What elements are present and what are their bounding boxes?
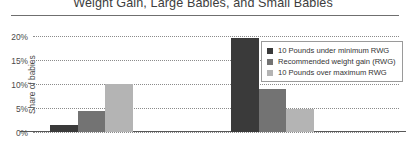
chart-legend: 10 Pounds under minimum RWG Recommended …: [261, 41, 403, 82]
bar-small-recommended[interactable]: [259, 89, 287, 132]
legend-item-recommended[interactable]: Recommended weight gain (RWG): [267, 56, 398, 67]
bar-large-recommended[interactable]: [78, 111, 106, 132]
legend-swatch-icon-recommended: [267, 59, 273, 65]
bar-small-over-max[interactable]: [286, 109, 314, 132]
y-tick-label-5: 5%: [16, 104, 28, 114]
bar-large-under-min[interactable]: [50, 125, 78, 132]
legend-label-over-max: 10 Pounds over maximum RWG: [278, 68, 387, 77]
legend-item-under-min[interactable]: 10 Pounds under minimum RWG: [267, 45, 398, 56]
y-tick-label-0: 0%: [16, 128, 28, 138]
y-tick-label-20: 20%: [11, 32, 28, 42]
legend-item-over-max[interactable]: 10 Pounds over maximum RWG: [267, 67, 398, 78]
bar-large-over-max[interactable]: [105, 84, 133, 132]
gridline-0: 0%: [33, 132, 399, 133]
legend-label-under-min: 10 Pounds under minimum RWG: [278, 46, 389, 55]
y-tick-label-15: 15%: [11, 56, 28, 66]
legend-swatch-icon-over-max: [267, 70, 273, 76]
chart-title: Weight Gain, Large Babies, and Small Bab…: [0, 0, 406, 10]
chart-screenshot: Weight Gain, Large Babies, and Small Bab…: [0, 0, 406, 151]
title-divider: [11, 15, 399, 16]
legend-swatch-icon-under-min: [267, 48, 273, 54]
gridline-20: 20%: [33, 36, 399, 37]
y-tick-label-10: 10%: [11, 80, 28, 90]
bar-small-under-min[interactable]: [231, 38, 259, 132]
gridline-5: 5%: [33, 108, 399, 109]
gridline-10: 10%: [33, 84, 399, 85]
legend-label-recommended: Recommended weight gain (RWG): [278, 57, 396, 66]
